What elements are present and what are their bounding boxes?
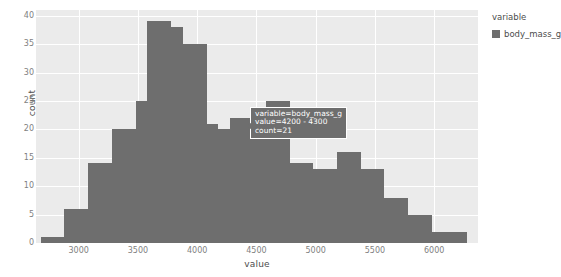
histogram-bar[interactable]: [361, 169, 385, 243]
y-tick-label: 25: [12, 97, 34, 105]
x-axis-ticks: 3000350040004500500055006000: [0, 246, 558, 258]
histogram-bar[interactable]: [313, 169, 337, 243]
x-tick-label: 5500: [355, 246, 395, 255]
histogram-bar[interactable]: [207, 124, 219, 243]
x-tick-label: 5000: [296, 246, 336, 255]
histogram-bar[interactable]: [147, 21, 171, 243]
histogram-bar[interactable]: [384, 198, 408, 243]
legend-entry-label: body_mass_g: [504, 29, 561, 39]
histogram-bar[interactable]: [171, 27, 183, 243]
x-tick-label: 3500: [118, 246, 158, 255]
histogram-bar[interactable]: [432, 232, 468, 243]
legend-entry[interactable]: body_mass_g: [492, 29, 556, 39]
histogram-bar[interactable]: [254, 124, 266, 243]
histogram-bar[interactable]: [136, 101, 148, 243]
x-tick-label: 3000: [59, 246, 99, 255]
x-tick-label: 4500: [236, 246, 276, 255]
hover-tooltip: variable=body_mass_g value=4200 - 4300 c…: [251, 108, 346, 138]
y-tick-label: 20: [12, 125, 34, 133]
y-tick-label: 15: [12, 154, 34, 162]
histogram-bar[interactable]: [64, 209, 88, 243]
legend-title: variable: [492, 12, 556, 22]
x-tick-label: 4000: [177, 246, 217, 255]
histogram-bar[interactable]: [408, 215, 432, 243]
histogram-bar[interactable]: [112, 129, 136, 243]
y-tick-label: 30: [12, 69, 34, 77]
tooltip-count-row: count=21: [255, 127, 342, 135]
legend: variable body_mass_g: [492, 12, 556, 39]
y-tick-label: 40: [12, 12, 34, 20]
legend-swatch-icon: [492, 30, 500, 38]
histogram-bar[interactable]: [183, 44, 207, 243]
histogram-bar[interactable]: [290, 163, 314, 243]
y-tick-label: 35: [12, 40, 34, 48]
histogram-bar[interactable]: [337, 152, 361, 243]
x-tick-label: 6000: [414, 246, 454, 255]
tooltip-arrow: [247, 122, 252, 130]
y-tick-label: 10: [12, 182, 34, 190]
x-axis-label: value: [36, 259, 478, 269]
histogram-bar[interactable]: [218, 129, 230, 243]
legend-entries[interactable]: body_mass_g: [492, 29, 556, 39]
y-tick-label: 5: [12, 211, 34, 219]
y-axis-ticks: 0510152025303540: [8, 0, 34, 277]
histogram-bar[interactable]: [41, 237, 65, 243]
gridline-vertical: [434, 10, 435, 243]
histogram-bar[interactable]: [88, 163, 112, 243]
